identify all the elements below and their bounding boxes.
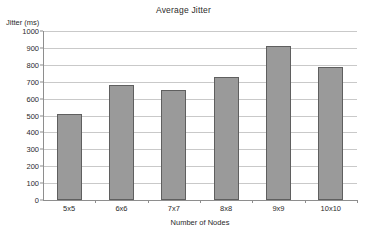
plot-area: 01002003004005006007008009001000: [43, 31, 357, 200]
x-tick-label-8x8: 8x8: [200, 204, 252, 213]
y-tick-label: 300: [26, 145, 39, 154]
x-axis-tick-labels: 5x56x67x78x89x910x10: [43, 204, 357, 213]
bar-5x5[interactable]: [57, 114, 82, 200]
bar-slot: [305, 31, 357, 200]
x-tick-label-6x6: 6x6: [95, 204, 147, 213]
y-tick-label: 500: [26, 111, 39, 120]
x-tick-label-9x9: 9x9: [252, 204, 304, 213]
y-tick-label: 0: [35, 196, 39, 205]
x-tick-label-5x5: 5x5: [43, 204, 95, 213]
y-tick-label: 900: [26, 43, 39, 52]
y-tick-label: 800: [26, 60, 39, 69]
bar-slot: [200, 31, 252, 200]
y-tick-label: 100: [26, 179, 39, 188]
x-tick-label-7x7: 7x7: [148, 204, 200, 213]
x-tick-mark: [95, 200, 96, 203]
y-tick-label: 600: [26, 94, 39, 103]
bar-9x9[interactable]: [266, 46, 291, 200]
bar-slot: [95, 31, 147, 200]
bar-slot: [148, 31, 200, 200]
jitter-bar-chart: Average Jitter Jitter (ms) 0100200300400…: [0, 0, 367, 241]
x-tick-mark: [357, 200, 358, 203]
bar-series: [43, 31, 357, 200]
x-tick-mark: [148, 200, 149, 203]
bar-7x7[interactable]: [161, 90, 186, 200]
x-tick-label-10x10: 10x10: [305, 204, 357, 213]
x-tick-mark: [252, 200, 253, 203]
y-tick-label: 200: [26, 162, 39, 171]
x-tick-mark: [305, 200, 306, 203]
chart-title: Average Jitter: [0, 5, 367, 15]
bar-slot: [252, 31, 304, 200]
y-tick-label: 1000: [22, 27, 39, 36]
y-tick-label: 700: [26, 77, 39, 86]
bar-10x10[interactable]: [318, 67, 343, 201]
bar-6x6[interactable]: [109, 85, 134, 200]
x-axis-label: Number of Nodes: [43, 218, 357, 227]
bar-slot: [43, 31, 95, 200]
y-tick-label: 400: [26, 128, 39, 137]
bar-8x8[interactable]: [214, 77, 239, 200]
x-tick-mark: [200, 200, 201, 203]
